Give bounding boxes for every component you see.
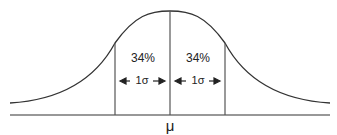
left-sigma-label: 1σ bbox=[136, 74, 149, 86]
normal-distribution-diagram: 34% 34% 1σ 1σ μ bbox=[0, 0, 337, 135]
bell-curve-graphic bbox=[0, 0, 337, 135]
left-percent-label: 34% bbox=[131, 51, 155, 65]
mean-label: μ bbox=[166, 117, 175, 134]
right-percent-label: 34% bbox=[186, 51, 210, 65]
right-sigma-label: 1σ bbox=[192, 74, 205, 86]
